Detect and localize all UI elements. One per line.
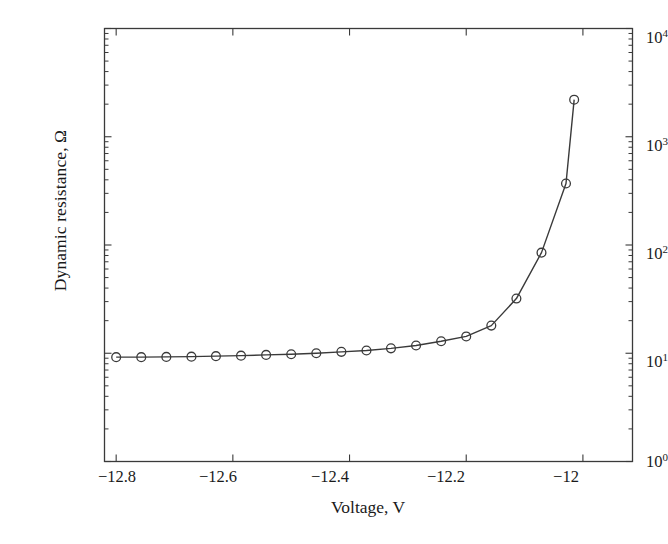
data-series-dynamic-resistance xyxy=(112,95,579,361)
axes-frame xyxy=(105,29,633,462)
plot-area xyxy=(0,0,668,544)
tick-marks xyxy=(105,29,633,462)
figure-canvas: Dynamic resistance, Ω 100 101 102 103 10… xyxy=(0,0,668,544)
